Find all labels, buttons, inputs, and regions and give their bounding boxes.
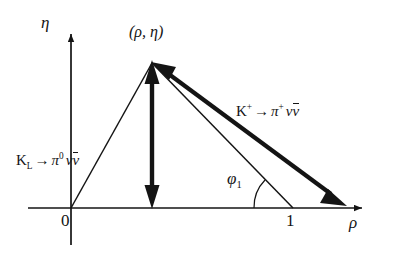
kplus-neutrino-symbol: ν <box>286 103 293 119</box>
kl-pion-charge: 0 <box>59 151 64 161</box>
apex-coordinate-label: (ρ, η) <box>129 24 163 40</box>
kl-decay-label: KL→π0νν <box>16 152 79 171</box>
kl-parent-symbol: K <box>16 152 27 168</box>
kl-arrowhead-down <box>145 185 160 209</box>
unit-tick-label: 1 <box>286 212 295 229</box>
kplus-parent-symbol: K <box>236 103 247 119</box>
kl-decay-arrow-glyph: → <box>35 152 50 168</box>
eta-axis-label: η <box>41 14 49 31</box>
figure-vector-canvas <box>0 0 394 258</box>
unitarity-triangle-figure: η ρ (ρ, η) 0 1 φ1 KL→π0νν K+→π+νν <box>0 0 394 258</box>
kplus-parent-charge: + <box>247 102 252 112</box>
phi1-symbol: φ <box>227 169 236 188</box>
kplus-arrow-shaft <box>166 72 331 194</box>
kplus-arrowhead-downright <box>320 189 347 206</box>
kl-pion-symbol: π <box>52 152 60 168</box>
kplus-pion-charge: + <box>279 102 284 112</box>
kplus-antineutrino-symbol: ν <box>293 104 300 119</box>
kl-antineutrino-symbol: ν <box>72 153 79 168</box>
kl-parent-subscript: L <box>27 161 33 171</box>
origin-tick-label: 0 <box>61 212 70 229</box>
kl-antineutrino-glyph: ν <box>72 152 79 168</box>
triangle-left-side <box>71 63 152 208</box>
antineutrino-overline <box>73 152 79 153</box>
kplus-antineutrino-glyph: ν <box>293 103 300 119</box>
kplus-decay-label: K+→π+νν <box>236 103 299 119</box>
phi1-subscript: 1 <box>236 179 241 190</box>
kplus-pion-symbol: π <box>271 103 279 119</box>
kplus-decay-double-arrow <box>151 62 347 206</box>
phi1-angle-label: φ1 <box>227 170 242 191</box>
triangle-right-side <box>152 63 293 208</box>
kplus-decay-arrow-glyph: → <box>254 103 269 119</box>
kl-decay-double-arrow <box>145 60 160 209</box>
phi1-angle-arc <box>254 180 265 208</box>
kl-neutrino-symbol: ν <box>66 152 73 168</box>
rho-axis-label: ρ <box>349 214 357 231</box>
antineutrino-overline <box>293 103 299 104</box>
